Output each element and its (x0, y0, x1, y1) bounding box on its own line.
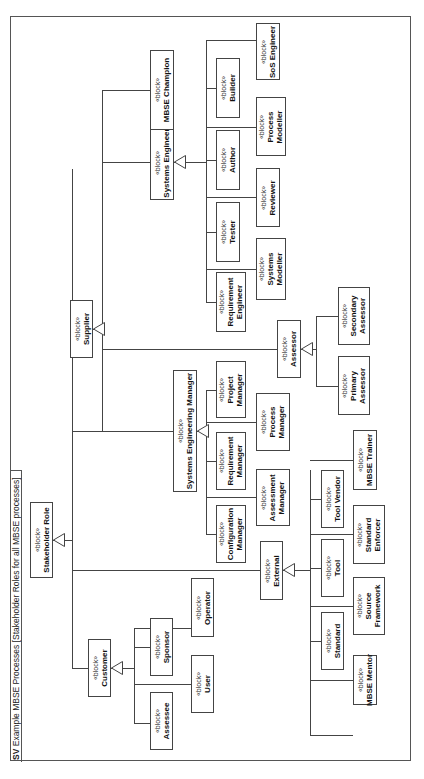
block-label: «block»Reviewer (260, 180, 277, 215)
block-operator[interactable]: «block»Operator (191, 578, 214, 637)
block-name: Framework (373, 585, 382, 628)
generalization-line (72, 668, 88, 669)
stereotype-label: «block» (73, 313, 81, 345)
block-user[interactable]: «block»User (191, 655, 214, 713)
block-tester[interactable]: «block»Tester (216, 202, 240, 262)
block-sponsor[interactable]: «block»Sponsor (150, 618, 173, 676)
block-name: Assessor (358, 367, 367, 403)
block-name: Configuration (226, 508, 235, 560)
block-stakeholder-role[interactable]: «block»Stakeholder Role (30, 502, 53, 578)
stereotype-label: «block» (91, 649, 99, 686)
block-source-framework[interactable]: «block»SourceFramework (353, 577, 385, 635)
block-assessor[interactable]: «block»Assessor (277, 320, 301, 378)
block-systems-engineering-manager[interactable]: «block»Systems Engineering Manager (173, 370, 197, 492)
block-tool[interactable]: «block»Tool (321, 539, 344, 597)
generalization-line (206, 390, 216, 391)
block-label: «block»Customer (91, 649, 108, 686)
block-label: «block»PrimaryAssessor (341, 367, 367, 403)
stereotype-label: «block» (258, 110, 266, 143)
stereotype-label: «block» (194, 672, 202, 696)
block-assessment-manager[interactable]: «block»AssessmentManager (256, 469, 290, 526)
generalization-line (206, 197, 256, 198)
block-name: Stakeholder Role (41, 507, 50, 572)
generalization-arrow-icon (174, 155, 186, 169)
generalization-line (310, 606, 353, 607)
block-label: «block»SecondaryAssessor (341, 296, 367, 337)
stereotype-label: «block» (258, 253, 266, 286)
block-supplier[interactable]: «block»Supplier (70, 300, 93, 358)
block-name: Project (226, 373, 235, 406)
block-name: Sponsor (161, 631, 170, 663)
block-systems-engineer[interactable]: «block»Systems Engineer (150, 125, 174, 200)
generalization-line (310, 460, 353, 461)
generalization-line (134, 723, 150, 724)
block-name: Assessor (358, 296, 367, 337)
block-sos-engineer[interactable]: «block»SoS Engineer (256, 23, 280, 80)
block-label: «block»Systems Engineering Manager (177, 373, 194, 489)
block-requirement-manager[interactable]: «block»RequirementManager (216, 432, 246, 490)
block-name: Systems (266, 253, 275, 286)
generalization-line (310, 534, 353, 535)
block-tool-vendor[interactable]: «block»Tool Vendor (321, 470, 344, 528)
block-assessee[interactable]: «block»Assessee (150, 692, 173, 750)
generalization-line (206, 127, 256, 128)
block-label: «block»RequirementManager (218, 437, 244, 486)
stereotype-label: «block» (357, 654, 365, 706)
block-mbse-mentor[interactable]: «block»MBSE Mentor (353, 655, 377, 705)
block-primary-assessor[interactable]: «block»PrimaryAssessor (338, 356, 370, 415)
block-label: «block»Assessor (281, 331, 298, 367)
stereotype-label: «block» (154, 128, 162, 197)
block-external[interactable]: «block»External (260, 541, 283, 600)
block-name: Tester (228, 220, 237, 244)
stereotype-label: «block» (341, 367, 349, 403)
block-label: «block»Assessee (153, 703, 170, 740)
stereotype-label: «block» (357, 434, 365, 486)
block-name: Standard (364, 517, 373, 552)
block-secondary-assessor[interactable]: «block»SecondaryAssessor (338, 287, 370, 345)
stereotype-label: «block» (154, 58, 162, 122)
block-reviewer[interactable]: «block»Reviewer (256, 168, 280, 227)
block-name: Modeller (275, 253, 284, 286)
block-project-manager[interactable]: «block»ProjectManager (216, 361, 246, 418)
block-systems-modeller[interactable]: «block»SystemsModeller (256, 238, 286, 300)
generalization-arrow-icon (283, 563, 295, 577)
generalization-line (310, 568, 321, 569)
block-name: Enforcer (373, 517, 382, 552)
block-mbse-trainer[interactable]: «block»MBSE Trainer (353, 430, 377, 490)
block-configuration-manager[interactable]: «block»ConfigurationManager (216, 505, 246, 563)
block-label: «block»Operator (194, 591, 211, 625)
block-label: «block»ProcessManager (260, 406, 286, 439)
block-requirement-engineer[interactable]: «block»RequirementEngineer (216, 272, 246, 332)
block-process-modeller[interactable]: «block»ProcessModeller (256, 97, 286, 156)
block-name: Tool (332, 556, 341, 580)
stereotype-label: «block» (356, 517, 364, 552)
block-standard[interactable]: «block»Standard (321, 612, 344, 670)
generalization-arrow-icon (301, 342, 313, 356)
block-name: Secondary (349, 296, 358, 337)
stereotype-label: «block» (194, 591, 202, 625)
stereotype-label: «block» (260, 474, 268, 521)
frame-title: Example MBSE Processes [Stakeholder Role… (11, 477, 21, 746)
stereotype-label: «block» (341, 296, 349, 337)
generalization-line (206, 40, 256, 41)
block-builder[interactable]: «block»Builder (216, 58, 240, 118)
block-standard-enforcer[interactable]: «block»StandardEnforcer (353, 505, 385, 564)
block-label: «block»AssessmentManager (260, 474, 286, 521)
block-mbse-champion[interactable]: «block»MBSE Champion (150, 50, 174, 130)
generalization-line (102, 90, 103, 431)
block-name: Supplier (81, 313, 90, 345)
generalization-line (206, 40, 207, 302)
generalization-line (72, 570, 260, 571)
block-name: Operator (202, 591, 211, 625)
stereotype-label: «block» (324, 556, 332, 580)
block-label: «block»Stakeholder Role (33, 507, 50, 572)
block-author[interactable]: «block»Author (216, 130, 240, 190)
generalization-line (102, 90, 150, 91)
stereotype-label: «block» (153, 703, 161, 740)
generalization-line (316, 316, 317, 386)
block-name: Customer (99, 649, 108, 686)
block-process-manager[interactable]: «block»ProcessManager (256, 393, 290, 451)
generalization-arrow-icon (111, 661, 123, 675)
block-customer[interactable]: «block»Customer (88, 639, 111, 697)
stereotype-label: «block» (33, 507, 41, 572)
